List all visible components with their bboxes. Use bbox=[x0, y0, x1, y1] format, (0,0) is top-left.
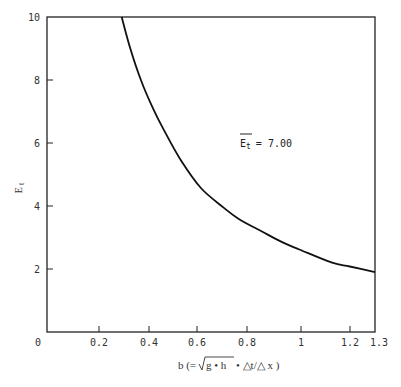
x-tick-0.8: 0.8 bbox=[238, 337, 256, 348]
mean-annotation: Et= 7.00 bbox=[240, 134, 292, 151]
x-tick-0: 0 bbox=[35, 337, 41, 348]
y-tick-6: 6 bbox=[34, 138, 40, 149]
x-tick-0.4: 0.4 bbox=[140, 337, 158, 348]
chart-canvas: 10 8 6 4 2 0 0.2 0.4 0.6 0.8 1 1.2 1.3 E… bbox=[0, 0, 401, 387]
y-axis-label: Et bbox=[13, 182, 26, 193]
svg-text:g • h: g • h bbox=[206, 359, 227, 371]
svg-text:Et: Et bbox=[13, 182, 26, 193]
y-tick-2: 2 bbox=[34, 264, 40, 275]
svg-text:b (=: b (= bbox=[178, 359, 196, 372]
svg-text:• △t/△ x ): • △t/△ x ) bbox=[236, 359, 280, 372]
svg-text:Et= 7.00: Et= 7.00 bbox=[240, 138, 292, 151]
y-tick-8: 8 bbox=[34, 75, 40, 86]
x-tick-0.6: 0.6 bbox=[188, 337, 206, 348]
plot-frame bbox=[47, 17, 375, 332]
x-axis-label: b (= g • h • △t/△ x ) bbox=[178, 357, 280, 372]
y-axis-ticks bbox=[47, 80, 53, 269]
x-tick-1.3: 1.3 bbox=[370, 337, 388, 348]
x-tick-1: 1 bbox=[298, 337, 304, 348]
x-tick-0.2: 0.2 bbox=[90, 337, 108, 348]
y-tick-10: 10 bbox=[28, 12, 40, 23]
y-tick-4: 4 bbox=[34, 201, 40, 212]
x-axis-ticks bbox=[99, 326, 350, 332]
x-tick-1.2: 1.2 bbox=[341, 337, 359, 348]
